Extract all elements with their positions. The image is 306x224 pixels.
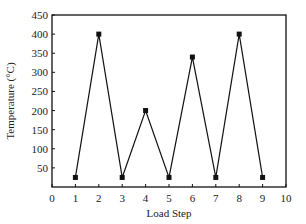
y-tick-label: 450	[32, 9, 49, 21]
data-point-marker	[143, 108, 148, 113]
x-tick-label: 1	[73, 192, 79, 204]
y-tick-label: 50	[37, 162, 49, 174]
y-tick-label: 350	[32, 47, 49, 59]
data-line	[75, 34, 262, 177]
data-point-marker	[167, 175, 172, 180]
x-tick-label: 2	[96, 192, 102, 204]
data-point-marker	[96, 32, 101, 37]
data-point-marker	[213, 175, 218, 180]
x-tick-label: 8	[236, 192, 242, 204]
y-tick-label: 250	[32, 85, 49, 97]
x-axis-label: Load Step	[147, 207, 192, 219]
data-point-marker	[120, 175, 125, 180]
y-axis-label: Temperature (°C)	[4, 62, 17, 140]
y-tick-label: 400	[32, 28, 49, 40]
x-tick-label: 10	[281, 192, 293, 204]
data-point-marker	[237, 32, 242, 37]
x-tick-label: 6	[190, 192, 196, 204]
data-point-marker	[73, 175, 78, 180]
line-chart: 01234567891050100150200250300350400450Lo…	[0, 0, 306, 224]
y-tick-label: 300	[32, 66, 49, 78]
y-tick-label: 100	[32, 143, 49, 155]
x-tick-label: 5	[166, 192, 172, 204]
data-point-marker	[190, 55, 195, 60]
x-tick-label: 4	[143, 192, 149, 204]
y-tick-label: 200	[32, 105, 49, 117]
x-tick-label: 3	[119, 192, 125, 204]
y-tick-label: 150	[32, 124, 49, 136]
data-point-marker	[260, 175, 265, 180]
x-tick-label: 7	[213, 192, 219, 204]
plot-frame	[52, 15, 286, 187]
x-tick-label: 0	[49, 192, 55, 204]
x-tick-label: 9	[260, 192, 266, 204]
